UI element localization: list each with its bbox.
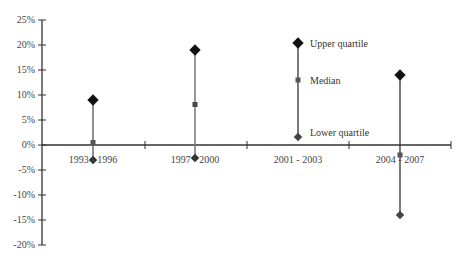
- y-label: -10%: [13, 189, 35, 200]
- median-marker: [193, 102, 198, 107]
- y-label: -15%: [13, 214, 35, 225]
- quartile-range-chart: 25% 20% 15% 10% 5% 0% -5% -10% -15% -20%: [0, 0, 466, 258]
- legend: Upper quartile Median Lower quartile: [292, 37, 369, 141]
- legend-upper-marker: [292, 37, 303, 48]
- y-label: -20%: [13, 239, 35, 250]
- legend-median-marker: [296, 78, 301, 83]
- upper-quartile-marker: [189, 44, 200, 55]
- x-label: 2004 - 2007: [376, 154, 424, 165]
- x-label: 1997 - 2000: [171, 154, 219, 165]
- median-marker: [91, 140, 96, 145]
- legend-lower-label: Lower quartile: [310, 127, 370, 138]
- range-2004-2007: [394, 69, 405, 219]
- legend-upper-label: Upper quartile: [310, 38, 369, 49]
- lower-quartile-marker: [396, 211, 404, 219]
- y-label: 25%: [17, 14, 35, 25]
- legend-median-label: Median: [310, 75, 341, 86]
- upper-quartile-marker: [87, 94, 98, 105]
- y-label: 5%: [22, 114, 35, 125]
- y-label: 10%: [17, 89, 35, 100]
- x-tick-labels: 1993 - 1996 1997 - 2000 2001 - 2003 2004…: [69, 154, 424, 165]
- y-label: 0%: [22, 139, 35, 150]
- x-label: 2001 - 2003: [274, 154, 322, 165]
- y-tick-labels: 25% 20% 15% 10% 5% 0% -5% -10% -15% -20%: [13, 14, 35, 250]
- x-label: 1993 - 1996: [69, 154, 117, 165]
- legend-lower-marker: [294, 133, 302, 141]
- y-label: -5%: [18, 164, 35, 175]
- y-label: 15%: [17, 64, 35, 75]
- upper-quartile-marker: [394, 69, 405, 80]
- y-label: 20%: [17, 39, 35, 50]
